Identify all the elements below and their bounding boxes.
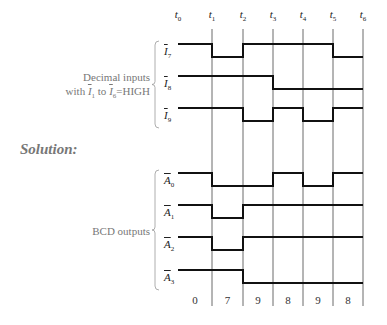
- time-label-t2: t2: [240, 8, 247, 23]
- time-label-t3: t3: [270, 8, 277, 23]
- timing-diagram: [0, 0, 387, 325]
- waveform-a2: [178, 237, 363, 250]
- solution-heading: Solution:: [20, 141, 78, 158]
- waveform-a3: [178, 270, 363, 283]
- bcd-code-value: 8: [285, 294, 291, 306]
- time-label-t5: t5: [330, 8, 337, 23]
- waveform-a1: [178, 205, 363, 218]
- waveform-a0: [178, 173, 363, 186]
- bcd-code-value: 9: [315, 294, 321, 306]
- bcd-code-value: 7: [225, 294, 231, 306]
- signal-label-a2: A2: [164, 238, 174, 253]
- signal-label-a0: A0: [164, 174, 174, 189]
- waveform-i8: [178, 76, 363, 89]
- bcd-code-value: 8: [345, 294, 351, 306]
- bcd-outputs-label: BCD outputs: [60, 224, 150, 238]
- group-brace: [152, 41, 159, 128]
- bcd-code-value: 0: [192, 294, 198, 306]
- bcd-code-value: 9: [255, 294, 261, 306]
- decimal-inputs-label: Decimal inputs with I1 to I6=HIGH: [60, 70, 150, 103]
- group-brace: [152, 170, 159, 290]
- signal-label-i8: I8: [164, 77, 171, 92]
- signal-label-i7: I7: [164, 45, 171, 60]
- signal-label-i9: I9: [164, 109, 171, 124]
- time-label-t4: t4: [300, 8, 307, 23]
- time-label-t1: t1: [209, 8, 216, 23]
- signal-label-a1: A1: [164, 206, 174, 221]
- waveform-i7: [178, 44, 363, 57]
- time-label-t0: t0: [175, 8, 182, 23]
- signal-label-a3: A3: [164, 271, 174, 286]
- time-label-t6: t6: [360, 8, 367, 23]
- waveform-i9: [178, 108, 363, 121]
